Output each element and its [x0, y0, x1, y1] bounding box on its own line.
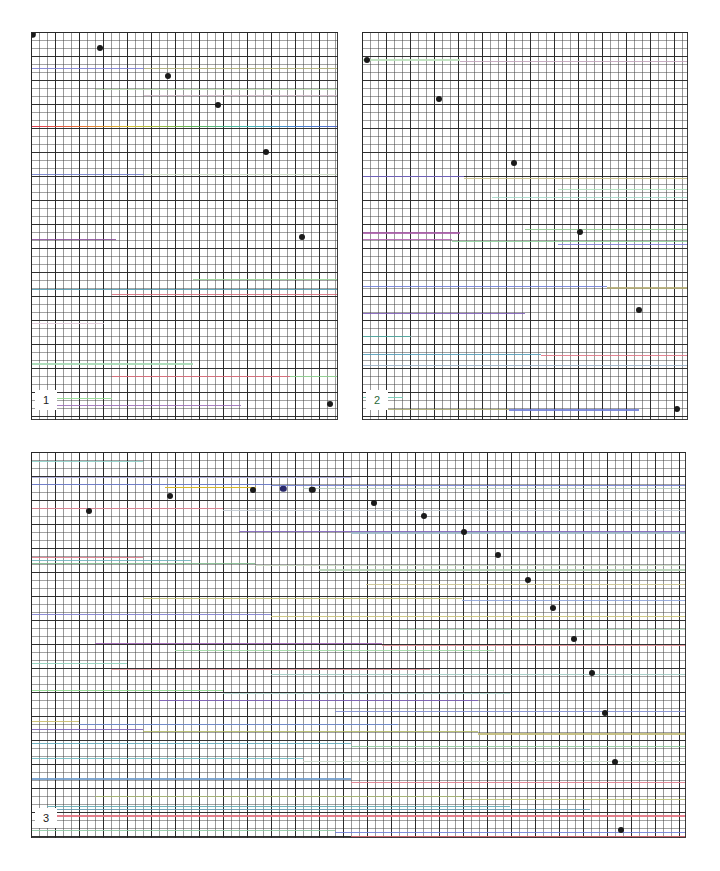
color-gridline	[362, 313, 525, 314]
color-gridline	[271, 616, 686, 617]
color-gridline	[362, 59, 460, 60]
panel-border	[31, 452, 686, 838]
color-gridline	[31, 690, 223, 691]
data-point	[571, 636, 577, 642]
color-gridline	[558, 189, 688, 190]
color-gridline	[175, 650, 495, 651]
color-gridline	[271, 485, 686, 486]
data-point	[327, 401, 333, 407]
color-gridline	[47, 809, 590, 810]
data-point	[167, 493, 173, 499]
color-gridline	[362, 365, 688, 366]
color-gridline	[271, 674, 686, 675]
rainbow-gridline	[31, 126, 338, 127]
data-point	[263, 149, 269, 155]
color-gridline	[607, 287, 689, 288]
color-gridline	[31, 174, 144, 175]
grid-fine-lines	[362, 32, 688, 420]
color-gridline	[558, 244, 688, 245]
color-gridline	[31, 729, 143, 730]
data-point	[602, 710, 608, 716]
grid-coarse-lines	[362, 32, 688, 420]
data-point	[618, 827, 624, 833]
color-gridline	[541, 355, 688, 356]
color-gridline	[31, 743, 351, 744]
data-point	[495, 552, 501, 558]
color-gridline	[303, 488, 686, 489]
color-gridline	[362, 176, 464, 177]
color-gridline	[31, 557, 143, 558]
color-gridline	[386, 409, 508, 410]
color-gridline	[351, 782, 686, 783]
color-gridline	[351, 746, 686, 747]
color-gridline	[478, 733, 686, 734]
color-gridline	[143, 598, 463, 599]
color-gridline	[223, 693, 511, 694]
color-gridline	[509, 409, 639, 410]
color-gridline	[79, 724, 399, 725]
data-point	[97, 45, 103, 51]
color-gridline	[31, 289, 338, 290]
color-gridline	[31, 563, 255, 564]
color-gridline	[382, 645, 686, 646]
color-gridline	[335, 832, 686, 833]
color-gridline	[31, 508, 223, 509]
data-point	[525, 577, 531, 583]
color-gridline	[31, 560, 191, 561]
panel-label-3: 3	[35, 808, 57, 828]
color-gridline	[96, 89, 338, 90]
data-point	[165, 73, 171, 79]
panel-label-2: 2	[366, 390, 388, 410]
grid-fine-lines	[31, 32, 338, 420]
color-gridline	[31, 614, 271, 615]
color-gridline	[144, 68, 338, 69]
panel-1: 1	[31, 32, 338, 420]
data-point	[674, 406, 680, 412]
color-gridline	[43, 405, 241, 406]
grid-fine-lines	[31, 452, 686, 838]
color-gridline	[525, 229, 688, 230]
data-point	[86, 508, 92, 514]
color-gridline	[452, 241, 688, 242]
data-point	[577, 229, 583, 235]
color-gridline	[223, 510, 686, 511]
color-gridline	[362, 286, 607, 287]
color-gridline	[335, 711, 686, 712]
color-gridline	[31, 663, 127, 664]
panel-3: 3	[31, 452, 686, 838]
color-gridline	[362, 336, 411, 337]
color-gridline	[31, 239, 116, 240]
figure-canvas: 123	[0, 0, 720, 871]
color-gridline	[31, 721, 79, 722]
data-point	[371, 500, 377, 506]
color-gridline	[303, 761, 686, 762]
color-gridline	[290, 376, 338, 377]
color-gridline	[47, 815, 686, 816]
color-gridline	[95, 796, 462, 797]
panel-label-1: 1	[35, 390, 57, 410]
color-gridline	[31, 477, 351, 478]
color-gridline	[193, 279, 338, 280]
color-gridline	[464, 178, 688, 179]
color-gridline	[319, 569, 686, 570]
color-gridline	[462, 799, 686, 800]
data-point	[550, 605, 556, 611]
color-gridline	[351, 836, 686, 837]
color-gridline	[255, 565, 686, 566]
data-point	[215, 102, 221, 108]
color-gridline	[31, 323, 104, 324]
panel-border	[362, 32, 688, 420]
highlight-line	[165, 487, 256, 489]
color-gridline	[144, 95, 338, 96]
color-gridline	[351, 532, 686, 533]
color-gridline	[460, 61, 688, 62]
color-gridline	[112, 376, 290, 377]
color-gridline	[31, 758, 303, 759]
color-gridline	[31, 68, 144, 69]
color-gridline	[143, 731, 478, 732]
data-point	[250, 487, 256, 493]
data-point	[309, 487, 315, 493]
data-point	[364, 57, 370, 63]
color-gridline	[362, 232, 460, 233]
color-gridline	[159, 700, 479, 701]
